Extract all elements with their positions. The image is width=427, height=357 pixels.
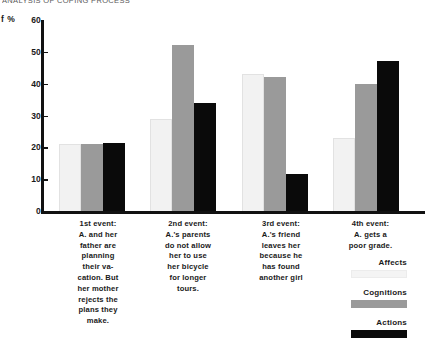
y-axis-tick-label: 40 — [31, 79, 41, 89]
bar-group — [242, 20, 312, 211]
bar-cognitions[interactable] — [264, 77, 286, 211]
bar-affects[interactable] — [242, 74, 264, 211]
bar-cognitions[interactable] — [172, 45, 194, 211]
legend-entry-affects[interactable]: Affects — [313, 258, 421, 288]
bar-group — [150, 20, 220, 211]
bar-cognitions[interactable] — [355, 84, 377, 211]
y-axis-tick-label: 20 — [31, 142, 41, 152]
legend-label: Cognitions — [313, 288, 421, 297]
bar-actions[interactable] — [377, 61, 399, 211]
caption-line: rejects the — [38, 295, 158, 306]
legend-swatch-cognitions — [351, 300, 407, 308]
legend-swatch-affects — [351, 270, 407, 278]
bar-actions[interactable] — [286, 174, 308, 211]
legend-label: Actions — [313, 318, 421, 327]
bar-group — [333, 20, 403, 211]
bar-affects[interactable] — [59, 144, 81, 211]
caption-line: plans they — [38, 305, 158, 316]
y-axis-tick-label: 50 — [31, 47, 41, 57]
x-axis-caption: 4th event:A. gets apoor grade. — [318, 219, 423, 251]
legend-entry-cognitions[interactable]: Cognitions — [313, 288, 421, 318]
chart-legend: AffectsCognitionsActions — [313, 258, 421, 348]
y-axis-tick-label: 60 — [31, 15, 41, 25]
legend-entry-actions[interactable]: Actions — [313, 318, 421, 348]
bar-group — [59, 20, 129, 211]
bar-actions[interactable] — [103, 143, 125, 211]
bar-groups — [44, 8, 425, 214]
caption-line: poor grade. — [318, 241, 423, 252]
caption-line: 4th event: — [318, 219, 423, 230]
y-axis-tick-label: 10 — [31, 174, 41, 184]
bar-affects[interactable] — [333, 138, 355, 211]
bar-affects[interactable] — [150, 119, 172, 211]
caption-line: make. — [38, 316, 158, 327]
y-axis-tick-label: 30 — [31, 111, 41, 121]
bar-actions[interactable] — [194, 103, 216, 211]
caption-line: A. gets a — [318, 230, 423, 241]
legend-label: Affects — [313, 258, 421, 267]
figure-running-title: ANALYSIS OF COPING PROCESS — [2, 0, 130, 4]
bar-cognitions[interactable] — [81, 144, 103, 211]
y-axis-tick-label: 0 — [36, 206, 41, 216]
bar-chart-plot-area: f % 6050403020100 — [0, 8, 427, 220]
legend-swatch-actions — [351, 330, 407, 338]
caption-line: tours. — [132, 284, 244, 295]
